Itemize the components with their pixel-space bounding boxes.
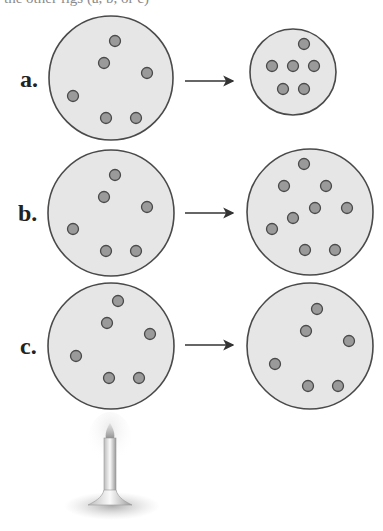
gas-particle — [342, 203, 353, 214]
gas-particle — [288, 213, 299, 224]
gas-particle — [131, 246, 142, 257]
gas-particle — [309, 61, 320, 72]
gas-particle — [110, 36, 121, 47]
gas-particle — [101, 246, 112, 257]
gas-particle — [71, 351, 82, 362]
gas-particle — [142, 68, 153, 79]
row-a — [49, 16, 336, 140]
gas-particle — [344, 336, 355, 347]
container-after-b — [247, 149, 373, 275]
gas-particle — [104, 373, 115, 384]
gas-particle — [303, 381, 314, 392]
gas-particle — [99, 192, 110, 203]
gas-particle — [145, 329, 156, 340]
gas-particle — [288, 61, 299, 72]
gas-law-diagram — [0, 0, 383, 531]
gas-particle — [333, 381, 344, 392]
gas-particle — [310, 203, 321, 214]
gas-particle — [321, 181, 332, 192]
gas-particle — [102, 318, 113, 329]
gas-particle — [131, 113, 142, 124]
bunsen-burner-icon — [64, 412, 160, 520]
gas-particle — [299, 159, 310, 170]
gas-particle — [312, 304, 323, 315]
gas-particle — [267, 61, 278, 72]
gas-particle — [113, 296, 124, 307]
row-b — [48, 149, 373, 276]
gas-particle — [299, 39, 310, 50]
gas-particle — [301, 326, 312, 337]
row-c — [48, 283, 373, 409]
gas-particle — [279, 181, 290, 192]
gas-particle — [68, 91, 79, 102]
gas-particle — [270, 359, 281, 370]
container-before-c — [48, 283, 174, 409]
gas-particle — [110, 170, 121, 181]
gas-particle — [267, 224, 278, 235]
gas-particle — [101, 113, 112, 124]
gas-particle — [142, 202, 153, 213]
container-before-b — [48, 150, 174, 276]
gas-particle — [99, 58, 110, 69]
gas-particle — [299, 84, 310, 95]
gas-particle — [278, 84, 289, 95]
gas-particle — [330, 245, 341, 256]
gas-particle — [134, 373, 145, 384]
gas-particle — [300, 245, 311, 256]
gas-particle — [68, 224, 79, 235]
